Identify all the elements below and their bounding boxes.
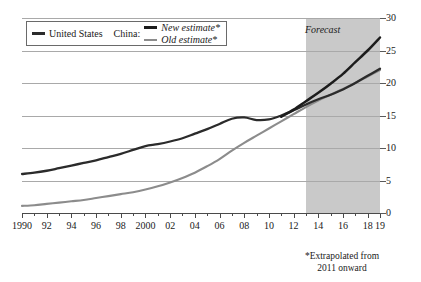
x-axis-tick-mark — [269, 214, 270, 218]
x-axis-tick-mark-minor — [207, 214, 208, 216]
x-axis-tick-mark — [220, 214, 221, 218]
x-axis-tick-mark — [121, 214, 122, 218]
x-axis-tick-mark-minor — [257, 214, 258, 216]
plot-area — [22, 18, 380, 213]
chart-legend: United States China: New estimate* Old e… — [26, 21, 227, 46]
legend-swatch-united-states — [32, 32, 45, 35]
x-axis-tick-label: 06 — [215, 220, 225, 231]
x-axis-tick-label: 92 — [42, 220, 52, 231]
legend-label-china: China: — [114, 28, 141, 39]
legend-swatch-old-estimate — [144, 39, 157, 41]
x-axis-tick-mark — [343, 214, 344, 218]
y-axis-tick-label: 15 — [386, 111, 396, 121]
x-axis-tick-label: 19 — [375, 220, 385, 231]
x-axis-tick-mark-minor — [84, 214, 85, 216]
x-axis-tick-label: 12 — [289, 220, 299, 231]
y-axis-tick-label: 25 — [386, 46, 396, 56]
x-axis-tick-label: 2000 — [135, 220, 155, 231]
x-axis-tick-mark — [368, 214, 369, 218]
x-axis-tick-mark — [96, 214, 97, 218]
x-axis-tick-label: 08 — [239, 220, 249, 231]
line-china-old-estimate — [22, 70, 380, 206]
y-axis-tick-label: 10 — [386, 143, 396, 153]
legend-label-united-states: United States — [49, 28, 103, 39]
legend-item-new-estimate: New estimate* — [144, 22, 220, 33]
x-axis-tick-label: 04 — [190, 220, 200, 231]
x-axis-tick-mark-minor — [59, 214, 60, 216]
x-axis-tick-mark-minor — [232, 214, 233, 216]
x-axis-tick-label: 10 — [264, 220, 274, 231]
y-axis-tick-mark — [380, 181, 386, 182]
x-axis-tick-label: 02 — [165, 220, 175, 231]
series-lines — [22, 18, 380, 213]
x-axis-tick-label: 96 — [91, 220, 101, 231]
x-axis-tick-label: 94 — [66, 220, 76, 231]
x-axis-tick-mark-minor — [281, 214, 282, 216]
x-axis-tick-mark-minor — [355, 214, 356, 216]
x-axis-tick-mark-minor — [158, 214, 159, 216]
x-axis-tick-mark — [244, 214, 245, 218]
x-axis-tick-mark — [380, 214, 381, 218]
chart-footnote: *Extrapolated from 2011 onward — [282, 250, 402, 274]
y-axis-tick-mark — [380, 51, 386, 52]
x-axis-tick-label: 98 — [116, 220, 126, 231]
x-axis-tick-mark — [47, 214, 48, 218]
x-axis-tick-mark-minor — [133, 214, 134, 216]
y-axis-tick-label: 0 — [386, 208, 391, 218]
y-axis-tick-mark — [380, 116, 386, 117]
x-axis-tick-mark-minor — [108, 214, 109, 216]
y-axis-tick-mark — [380, 18, 386, 19]
x-axis-tick-mark — [22, 214, 23, 218]
legend-swatch-new-estimate — [144, 26, 157, 29]
y-axis-tick-label: 5 — [386, 176, 391, 186]
x-axis-tick-label: 14 — [313, 220, 323, 231]
x-axis-tick-mark — [294, 214, 295, 218]
x-axis-tick-mark-minor — [331, 214, 332, 216]
legend-item-old-estimate: Old estimate* — [144, 34, 220, 45]
x-axis-tick-mark — [195, 214, 196, 218]
y-axis-tick-mark — [380, 148, 386, 149]
x-axis-tick-mark — [145, 214, 146, 218]
x-axis-tick-mark-minor — [182, 214, 183, 216]
x-axis-tick-mark — [71, 214, 72, 218]
x-axis-tick-label: 1990 — [12, 220, 32, 231]
x-axis-tick-mark — [318, 214, 319, 218]
legend-label-old-estimate: Old estimate* — [161, 34, 217, 45]
x-axis-line — [22, 213, 380, 214]
x-axis-tick-label: 18 — [363, 220, 373, 231]
x-axis-tick-mark-minor — [34, 214, 35, 216]
x-axis-tick-mark-minor — [306, 214, 307, 216]
line-united-states — [22, 69, 380, 174]
footnote-line-1: *Extrapolated from — [282, 250, 402, 262]
y-axis-tick-label: 30 — [386, 13, 396, 23]
forecast-label: Forecast — [305, 24, 340, 35]
legend-china-group: New estimate* Old estimate* — [144, 22, 220, 45]
footnote-line-2: 2011 onward — [282, 262, 402, 274]
y-axis-tick-mark — [380, 83, 386, 84]
x-axis-tick-mark — [170, 214, 171, 218]
x-axis-tick-label: 16 — [338, 220, 348, 231]
legend-item-united-states: United States — [32, 28, 103, 39]
y-axis-tick-label: 20 — [386, 78, 396, 88]
legend-label-new-estimate: New estimate* — [161, 22, 220, 33]
chart-figure: 051015202530 199092949698200002040608101… — [0, 0, 421, 282]
